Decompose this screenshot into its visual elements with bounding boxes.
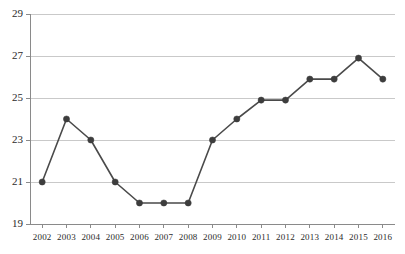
data-point-2014 — [331, 76, 337, 82]
x-tick-label-2016: 2016 — [369, 233, 397, 242]
chart-canvas — [0, 0, 405, 254]
x-axis-ticks — [42, 224, 383, 228]
y-tick-label-27: 27 — [12, 50, 23, 61]
y-tick-label-29: 29 — [12, 8, 23, 19]
data-point-2007 — [161, 200, 167, 206]
data-point-2002 — [39, 179, 45, 185]
y-tick-label-23: 23 — [12, 134, 23, 145]
data-point-2012 — [282, 97, 288, 103]
line-chart: 192123252729 200220032004200520062007200… — [0, 0, 405, 254]
data-point-2016 — [380, 76, 386, 82]
data-point-2013 — [307, 76, 313, 82]
y-axis-ticks — [26, 14, 30, 224]
data-point-2003 — [63, 116, 69, 122]
y-tick-label-21: 21 — [12, 176, 23, 187]
axis-lines — [30, 14, 395, 224]
data-point-2011 — [258, 97, 264, 103]
data-point-2010 — [234, 116, 240, 122]
data-point-2009 — [209, 137, 215, 143]
data-point-markers — [39, 55, 386, 206]
data-point-2004 — [88, 137, 94, 143]
gridlines — [30, 14, 395, 182]
y-tick-label-19: 19 — [12, 218, 23, 229]
data-point-2015 — [355, 55, 361, 61]
data-point-2006 — [136, 200, 142, 206]
data-point-2008 — [185, 200, 191, 206]
data-point-2005 — [112, 179, 118, 185]
y-tick-label-25: 25 — [12, 92, 23, 103]
